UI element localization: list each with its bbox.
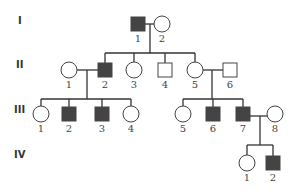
individual-iii-4: 4	[123, 106, 139, 134]
individual-number: 3	[131, 79, 137, 90]
individual-number: 2	[159, 33, 165, 44]
individual-iii-1: 1	[33, 106, 49, 134]
generation-label-ii: II	[16, 59, 23, 70]
unaffected-male-square-icon	[158, 63, 172, 77]
individual-ii-5: 5	[187, 62, 203, 90]
individual-i-1: 1	[131, 17, 145, 44]
pedigree-diagram: I II III IV 121234561	[0, 0, 302, 191]
individual-number: 6	[227, 79, 233, 90]
affected-male-square-icon	[131, 17, 145, 31]
individual-iii-8: 8	[267, 106, 283, 134]
affected-male-square-icon	[206, 107, 220, 121]
individual-number: 7	[240, 123, 246, 134]
individual-iii-2: 2	[62, 107, 76, 134]
unaffected-female-circle-icon	[154, 16, 170, 32]
individual-iii-6: 6	[206, 107, 220, 134]
individual-ii-3: 3	[126, 62, 142, 90]
affected-male-square-icon	[266, 156, 280, 170]
unaffected-female-circle-icon	[187, 62, 203, 78]
individual-number: 4	[162, 79, 168, 90]
individual-number: 2	[66, 123, 72, 134]
generation-label-i: I	[18, 15, 22, 26]
individual-number: 1	[38, 123, 44, 134]
individual-iv-2: 2	[266, 156, 280, 183]
generation-label-iii: III	[14, 104, 25, 115]
individual-ii-2: 2	[98, 63, 112, 90]
affected-male-square-icon	[98, 63, 112, 77]
individual-number: 6	[210, 123, 216, 134]
generation-labels: I II III IV	[14, 15, 26, 160]
individual-i-2: 2	[154, 16, 170, 44]
unaffected-female-circle-icon	[175, 106, 191, 122]
affected-male-square-icon	[236, 107, 250, 121]
individual-iv-1: 1	[239, 155, 255, 183]
individual-number: 1	[135, 33, 141, 44]
individual-ii-4: 4	[158, 63, 172, 90]
affected-male-square-icon	[62, 107, 76, 121]
affected-male-square-icon	[95, 107, 109, 121]
individual-ii-1: 1	[61, 62, 77, 90]
unaffected-female-circle-icon	[239, 155, 255, 171]
unaffected-female-circle-icon	[123, 106, 139, 122]
unaffected-female-circle-icon	[61, 62, 77, 78]
individual-number: 1	[244, 172, 250, 183]
individual-number: 2	[270, 172, 276, 183]
individual-iii-5: 5	[175, 106, 191, 134]
connector-lines	[41, 24, 273, 156]
individual-number: 5	[192, 79, 198, 90]
individual-ii-6: 6	[223, 63, 237, 90]
individual-number: 8	[272, 123, 278, 134]
unaffected-female-circle-icon	[33, 106, 49, 122]
unaffected-male-square-icon	[223, 63, 237, 77]
individual-number: 3	[99, 123, 105, 134]
unaffected-female-circle-icon	[267, 106, 283, 122]
individual-iii-3: 3	[95, 107, 109, 134]
individual-number: 1	[66, 79, 72, 90]
individual-number: 4	[128, 123, 134, 134]
unaffected-female-circle-icon	[126, 62, 142, 78]
individual-number: 2	[102, 79, 108, 90]
individual-iii-7: 7	[236, 107, 250, 134]
individual-number: 5	[180, 123, 186, 134]
generation-label-iv: IV	[14, 149, 26, 160]
